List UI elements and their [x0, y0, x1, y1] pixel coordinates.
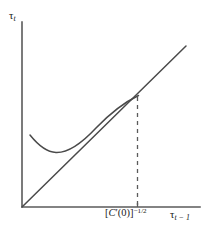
y-axis-label: τt	[9, 10, 16, 23]
identity-line	[23, 46, 187, 207]
tick-label-variable: C	[109, 207, 116, 218]
map-curve	[30, 96, 139, 153]
tick-label-exponent: −1/2	[134, 207, 147, 215]
plot-canvas	[0, 0, 209, 232]
x-axis-tick-label: [C′(0)]−1/2	[105, 208, 147, 219]
tick-label-argument: (0)]	[118, 207, 134, 218]
x-axis-label: τt − 1	[170, 209, 190, 222]
x-axis-label-subscript: t − 1	[174, 213, 189, 222]
figure-container: τt τt − 1 [C′(0)]−1/2	[0, 0, 209, 232]
y-axis-label-subscript: t	[13, 14, 15, 23]
